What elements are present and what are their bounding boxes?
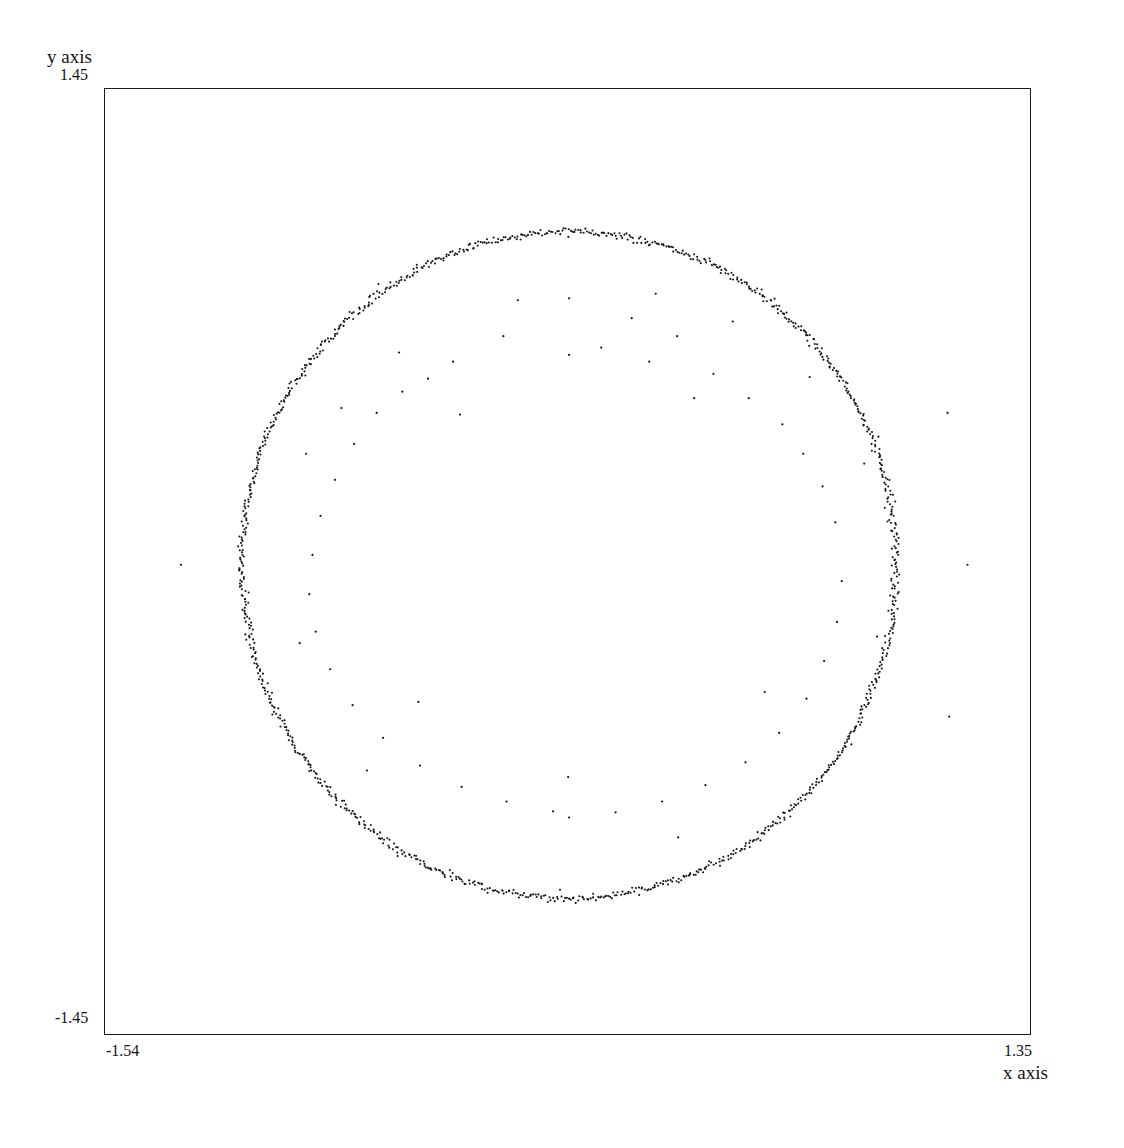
x-axis-max-tick-label: 1.35 <box>1004 1042 1032 1060</box>
scatter-plot-figure: y axis 1.45 -1.45 -1.54 1.35 x axis <box>0 0 1124 1148</box>
scatter-points-canvas <box>104 88 1031 1035</box>
y-axis-label: y axis <box>47 46 92 68</box>
x-axis-min-tick-label: -1.54 <box>106 1042 139 1060</box>
y-axis-max-tick-label: 1.45 <box>60 66 88 84</box>
x-axis-label: x axis <box>1003 1062 1048 1084</box>
y-axis-min-tick-label: -1.45 <box>55 1009 88 1027</box>
chart-title <box>0 0 1124 4</box>
